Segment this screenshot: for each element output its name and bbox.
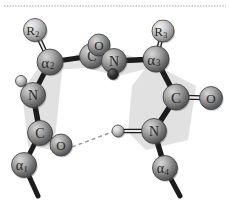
atom-h4 bbox=[112, 125, 125, 138]
molecular-diagram-figure: R2α2CONα3R3NCOα1CONα4 bbox=[0, 0, 230, 209]
atom-ca1: α1 bbox=[12, 153, 38, 179]
hbond-O1-H4 bbox=[72, 132, 112, 147]
atom-o34: O bbox=[200, 87, 224, 111]
atom-ca4: α4 bbox=[153, 156, 179, 182]
atom-r2: R2 bbox=[24, 19, 48, 43]
hydrogen-bond-group bbox=[72, 132, 112, 147]
atom-h1 bbox=[16, 76, 28, 88]
molecule-canvas: R2α2CONα3R3NCOα1CONα4 bbox=[0, 0, 230, 209]
atom-o1: O bbox=[50, 134, 73, 157]
atom-r3: R3 bbox=[152, 20, 175, 43]
